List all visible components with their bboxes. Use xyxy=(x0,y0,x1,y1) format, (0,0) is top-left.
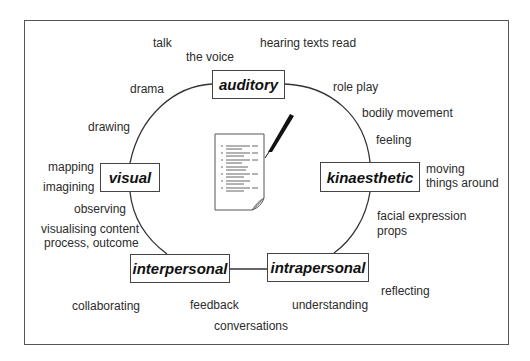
label-visualising-content: visualising content xyxy=(41,222,139,236)
label-things-around: things around xyxy=(426,176,499,190)
node-interpersonal: interpersonal xyxy=(130,254,230,283)
document-with-pen-icon xyxy=(212,112,302,212)
label-drawing: drawing xyxy=(88,120,130,134)
label-moving: moving xyxy=(426,162,465,176)
label-bodily-movement: bodily movement xyxy=(362,106,453,120)
label-feeling: feeling xyxy=(376,133,411,147)
label-drama: drama xyxy=(130,82,164,96)
label-understanding: understanding xyxy=(292,298,368,312)
label-imagining: imagining xyxy=(43,180,94,194)
label-mapping: mapping xyxy=(48,160,94,174)
node-auditory: auditory xyxy=(212,70,285,99)
label-talk: talk xyxy=(153,36,172,50)
label-process-outcome: process, outcome xyxy=(44,236,139,250)
label-hearing-texts-read: hearing texts read xyxy=(260,36,356,50)
node-kinaesthetic: kinaesthetic xyxy=(320,162,420,192)
node-intrapersonal: intrapersonal xyxy=(267,253,369,282)
label-feedback: feedback xyxy=(190,298,239,312)
node-visual: visual xyxy=(100,163,160,192)
label-collaborating: collaborating xyxy=(72,299,140,313)
label-the-voice: the voice xyxy=(186,50,234,64)
label-observing: observing xyxy=(74,202,126,216)
label-reflecting: reflecting xyxy=(381,284,430,298)
label-conversations: conversations xyxy=(214,319,288,333)
label-role-play: role play xyxy=(333,80,378,94)
label-facial-expression: facial expression xyxy=(377,209,466,223)
label-props: props xyxy=(377,224,407,238)
